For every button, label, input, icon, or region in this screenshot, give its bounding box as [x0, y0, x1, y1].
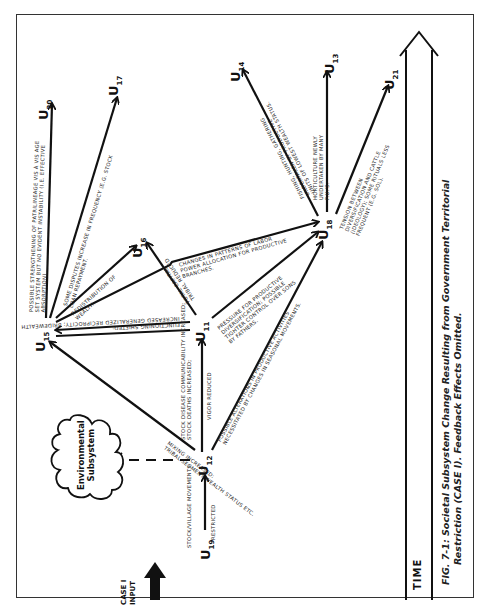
edge-label-u19-u12-restricted: Restricted: [210, 504, 216, 540]
node-u11: U11: [193, 322, 211, 342]
node-u20: U20: [36, 100, 54, 120]
figure-caption: FIG. 7-1: Societal Subsystem Change Resu…: [440, 180, 464, 585]
node-u19: U19: [198, 540, 216, 560]
time-arrow: [400, 32, 438, 600]
time-label: TIME: [412, 559, 423, 590]
figure-page: U20 U17 U16 U15 U11 U12 U19 U18 U14 U13 …: [0, 0, 481, 612]
case-input-arrow: [144, 562, 166, 600]
node-u16: U16: [130, 238, 148, 258]
node-u21: U21: [382, 70, 400, 90]
edge-label-u12-u11-vigor: Vigor reduced: [206, 372, 212, 420]
node-u17: U17: [106, 76, 124, 96]
node-u18: U18: [316, 220, 334, 240]
node-u14: U14: [228, 62, 246, 82]
edge-label-u12-u11: Stock disease communicability increased;…: [180, 303, 192, 440]
edge-label-u18-u13: Horticulture newlyundertaken by manyP.U.…: [312, 135, 330, 200]
node-u13: U13: [322, 54, 340, 74]
edge-label-u19-u12: Stock/village movements: [186, 465, 192, 548]
environmental-subsystem-label: EnvironmentalSubsystem: [76, 420, 96, 490]
case-input-label: CASE IINPUT: [120, 580, 138, 605]
